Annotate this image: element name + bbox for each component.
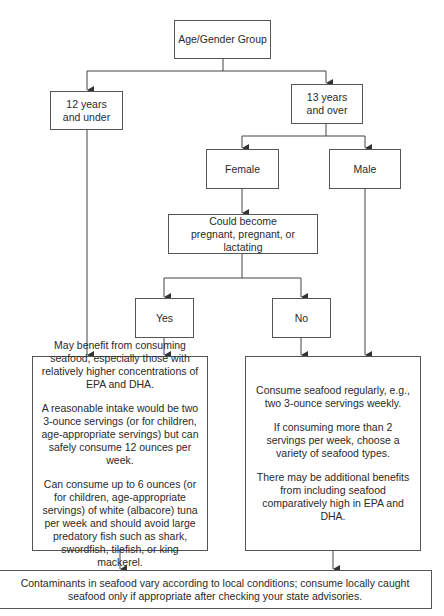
advice-paragraph: Consume seafood regularly, e.g., two 3-o…	[256, 384, 410, 410]
node-label: 12 years and under	[51, 98, 122, 124]
node-pregnancy-question: Could become pregnant, pregnant, or lact…	[168, 214, 318, 254]
node-advice-general: Consume seafood regularly, e.g., two 3-o…	[245, 356, 421, 551]
advice-paragraph: A reasonable intake would be two 3-ounce…	[40, 402, 200, 467]
node-no: No	[272, 298, 331, 338]
node-male: Male	[329, 149, 401, 189]
node-yes: Yes	[135, 298, 194, 338]
node-contaminants-note: Contaminants in seafood vary according t…	[0, 570, 432, 609]
node-label: 13 years and over	[292, 91, 362, 117]
advice-paragraph: There may be additional benefits from in…	[256, 471, 410, 523]
node-label: Male	[354, 163, 377, 176]
node-age-gender-group: Age/Gender Group	[174, 20, 271, 59]
node-label: Age/Gender Group	[178, 33, 267, 46]
advice-paragraph: Can consume up to 6 ounces (or for child…	[40, 478, 200, 569]
node-label: Female	[225, 163, 260, 176]
advice-paragraph: If consuming more than 2 servings per we…	[256, 421, 410, 460]
node-advice-children-pregnant: May benefit from consuming seafood, espe…	[32, 356, 208, 551]
node-13-years-and-over: 13 years and over	[291, 84, 363, 124]
node-label: Contaminants in seafood vary according t…	[15, 577, 415, 603]
node-label: Could become pregnant, pregnant, or lact…	[169, 215, 317, 254]
advice-paragraph: May benefit from consuming seafood, espe…	[40, 339, 200, 391]
node-12-years-and-under: 12 years and under	[50, 91, 123, 130]
node-label: No	[295, 312, 308, 325]
node-female: Female	[206, 149, 279, 189]
node-label: Yes	[156, 312, 173, 325]
